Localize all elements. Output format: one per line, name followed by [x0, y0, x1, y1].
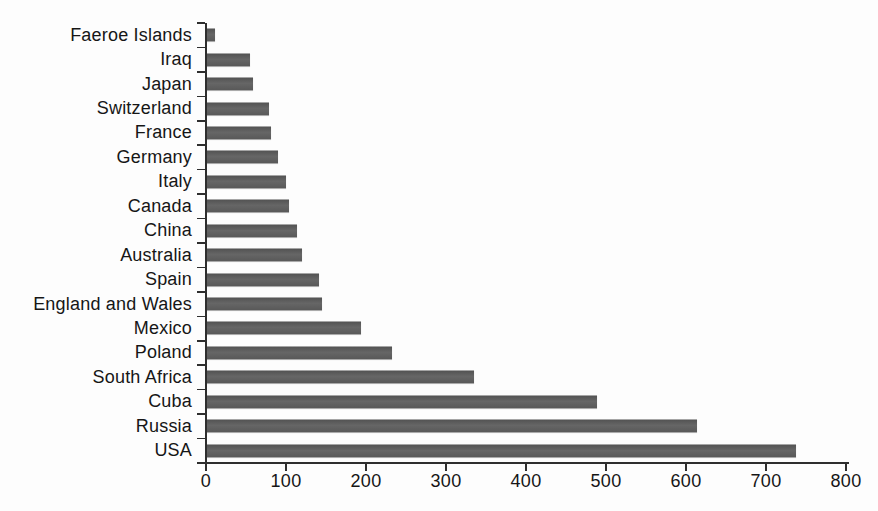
category-label: Switzerland [0, 96, 206, 120]
x-tick-label: 300 [431, 471, 462, 492]
x-tick [285, 463, 287, 471]
bar [207, 273, 319, 286]
category-label: Italy [0, 170, 206, 194]
bar-row [206, 292, 848, 316]
y-tick [197, 316, 205, 318]
y-tick [197, 438, 205, 440]
x-tick-labels: 0100200300400500600700800 [206, 471, 848, 495]
bar [207, 29, 215, 42]
category-label: Faeroe Islands [0, 23, 206, 47]
y-tick [197, 22, 205, 24]
bar [207, 102, 269, 115]
category-label: England and Wales [0, 292, 206, 316]
bar [207, 224, 297, 237]
bar [207, 53, 250, 66]
y-tick [197, 218, 205, 220]
bar-row [206, 121, 848, 145]
x-tick [205, 463, 207, 471]
plot-area [206, 23, 848, 463]
bar-row [206, 47, 848, 71]
y-tick [197, 242, 205, 244]
bar [207, 395, 597, 408]
bar [207, 78, 253, 91]
category-label: Germany [0, 145, 206, 169]
bar [207, 298, 322, 311]
category-label: France [0, 121, 206, 145]
bar-chart: Faeroe IslandsIraqJapanSwitzerlandFrance… [0, 0, 878, 511]
bar-row [206, 23, 848, 47]
y-tick [197, 47, 205, 49]
category-label: China [0, 219, 206, 243]
category-label: Japan [0, 72, 206, 96]
bar [207, 444, 796, 457]
bar [207, 346, 392, 359]
bar [207, 200, 289, 213]
y-tick [197, 462, 205, 464]
x-tick-label: 500 [591, 471, 622, 492]
category-label: Russia [0, 414, 206, 438]
bar-row [206, 438, 848, 462]
x-tick [765, 463, 767, 471]
category-labels: Faeroe IslandsIraqJapanSwitzerlandFrance… [0, 23, 206, 463]
x-tick-label: 100 [271, 471, 302, 492]
y-tick [197, 291, 205, 293]
y-tick [197, 267, 205, 269]
bar [207, 126, 271, 139]
bar-row [206, 414, 848, 438]
bar-row [206, 194, 848, 218]
category-label: Mexico [0, 316, 206, 340]
bar-row [206, 170, 848, 194]
x-tick-label: 200 [351, 471, 382, 492]
bar [207, 322, 361, 335]
x-tick [365, 463, 367, 471]
y-tick [197, 169, 205, 171]
category-label: Spain [0, 267, 206, 291]
x-tick [685, 463, 687, 471]
bar [207, 175, 286, 188]
bar [207, 420, 697, 433]
x-tick [525, 463, 527, 471]
bar [207, 249, 302, 262]
x-tick-label: 400 [511, 471, 542, 492]
category-label: USA [0, 438, 206, 462]
bar-row [206, 267, 848, 291]
x-tick [845, 463, 847, 471]
bar-row [206, 390, 848, 414]
bar-row [206, 96, 848, 120]
x-tick-label: 800 [831, 471, 862, 492]
category-label: Australia [0, 243, 206, 267]
x-tick [445, 463, 447, 471]
category-label: Iraq [0, 47, 206, 71]
bar-row [206, 72, 848, 96]
x-tick [605, 463, 607, 471]
y-tick [197, 193, 205, 195]
bar-row [206, 316, 848, 340]
bar-row [206, 243, 848, 267]
y-tick [197, 413, 205, 415]
category-label: Poland [0, 341, 206, 365]
bar [207, 371, 474, 384]
category-label: Cuba [0, 390, 206, 414]
y-tick [197, 364, 205, 366]
x-tick-label: 0 [201, 471, 211, 492]
bars-container [206, 23, 848, 463]
y-tick [197, 340, 205, 342]
y-tick [197, 144, 205, 146]
y-tick [197, 71, 205, 73]
bar-row [206, 145, 848, 169]
x-tick-label: 700 [751, 471, 782, 492]
bar-row [206, 341, 848, 365]
y-axis-line [205, 23, 207, 464]
bar-row [206, 365, 848, 389]
bar-row [206, 219, 848, 243]
y-tick [197, 96, 205, 98]
x-tick-label: 600 [671, 471, 702, 492]
category-label: Canada [0, 194, 206, 218]
y-tick [197, 389, 205, 391]
category-label: South Africa [0, 365, 206, 389]
y-tick [197, 120, 205, 122]
bar [207, 151, 278, 164]
